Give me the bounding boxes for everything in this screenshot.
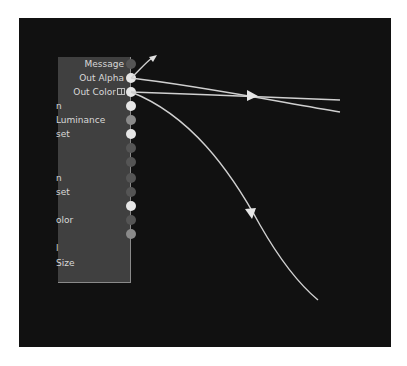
expand-compound-icon[interactable] bbox=[117, 88, 125, 95]
node-attribute-row[interactable] bbox=[56, 228, 122, 241]
attribute-label: l bbox=[56, 242, 59, 255]
output-port[interactable] bbox=[126, 215, 136, 225]
attribute-label: Out Alpha bbox=[79, 72, 124, 85]
attribute-label: olor bbox=[56, 214, 73, 227]
node-attribute-row[interactable]: n bbox=[56, 100, 122, 113]
output-port[interactable] bbox=[126, 143, 136, 153]
attribute-label: Size bbox=[56, 257, 74, 270]
node-attribute-row[interactable] bbox=[56, 142, 122, 155]
output-port[interactable] bbox=[126, 115, 136, 125]
output-port[interactable] bbox=[126, 229, 136, 239]
output-port[interactable] bbox=[126, 73, 136, 83]
node-attribute-row[interactable]: set bbox=[56, 128, 122, 141]
node-attribute-row[interactable]: n bbox=[56, 172, 122, 185]
node-attribute-row[interactable] bbox=[56, 200, 122, 213]
node-attribute-row[interactable]: Out Alpha bbox=[58, 72, 124, 85]
attribute-label: n bbox=[56, 100, 62, 113]
output-port[interactable] bbox=[126, 173, 136, 183]
output-port[interactable] bbox=[126, 101, 136, 111]
node-attribute-row[interactable]: olor bbox=[56, 214, 122, 227]
output-port[interactable] bbox=[126, 157, 136, 167]
node-attribute-row[interactable] bbox=[56, 156, 122, 169]
attribute-label: set bbox=[56, 128, 70, 141]
shader-node[interactable]: MessageOut AlphaOut ColornLuminancesetns… bbox=[58, 57, 131, 283]
output-port[interactable] bbox=[126, 201, 136, 211]
node-attribute-row[interactable]: l bbox=[56, 242, 122, 255]
node-attribute-row[interactable]: Out Color bbox=[58, 86, 116, 99]
attribute-label: n bbox=[56, 172, 62, 185]
attribute-label: Out Color bbox=[73, 86, 116, 99]
output-port[interactable] bbox=[126, 129, 136, 139]
output-port[interactable] bbox=[126, 87, 136, 97]
attribute-label: Message bbox=[85, 58, 124, 71]
output-port[interactable] bbox=[126, 187, 136, 197]
attribute-label: Luminance bbox=[56, 114, 105, 127]
node-attribute-row[interactable]: Luminance bbox=[56, 114, 122, 127]
node-attribute-row[interactable]: Size bbox=[56, 257, 122, 270]
output-port[interactable] bbox=[126, 59, 136, 69]
node-attribute-row[interactable]: Message bbox=[58, 58, 124, 71]
node-attribute-row[interactable]: set bbox=[56, 186, 122, 199]
attribute-label: set bbox=[56, 186, 70, 199]
